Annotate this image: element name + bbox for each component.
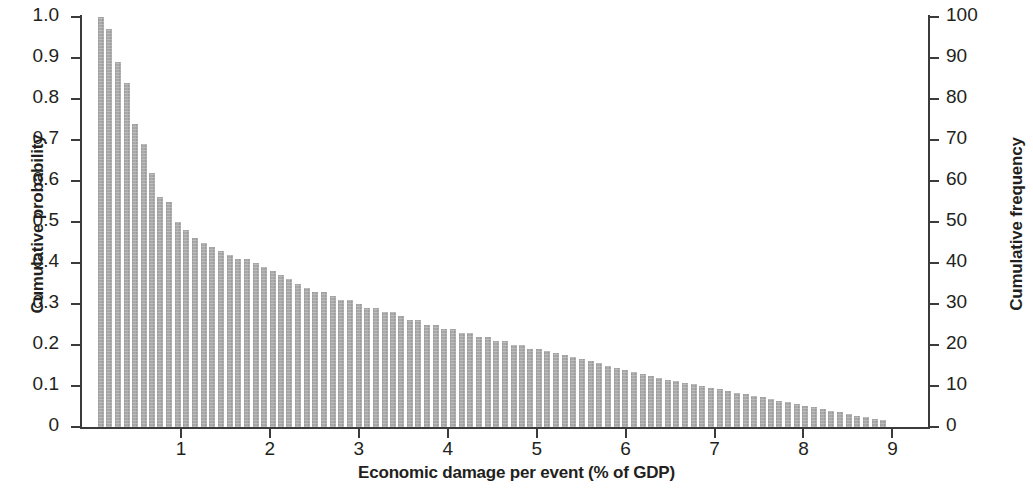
y-axis-right-tick xyxy=(930,57,939,59)
y-axis-right-tick xyxy=(930,426,939,428)
bar xyxy=(253,263,259,427)
y-axis-right-tick-label: 40 xyxy=(946,250,998,272)
x-axis-tick-label: 3 xyxy=(339,438,379,460)
y-axis-left-tick-label: 0.8 xyxy=(7,86,59,108)
y-axis-right-tick-label: 20 xyxy=(946,332,998,354)
x-axis-tick xyxy=(802,429,804,438)
bar xyxy=(459,333,465,427)
bar xyxy=(519,345,525,427)
bar xyxy=(828,411,834,427)
bar xyxy=(270,271,276,427)
y-axis-right-title: Cumulative frequency xyxy=(1007,104,1027,344)
cumulative-damage-chart: Cumulative probability Cumulative freque… xyxy=(0,0,1033,493)
y-axis-right-tick-label: 0 xyxy=(946,414,998,436)
x-axis-tick-label: 8 xyxy=(783,438,823,460)
x-axis-tick xyxy=(269,429,271,438)
bar xyxy=(424,325,430,428)
bar xyxy=(278,275,284,427)
bar xyxy=(553,353,559,427)
y-axis-left-tick-label: 0.7 xyxy=(7,127,59,149)
y-axis-right-tick xyxy=(930,16,939,18)
y-axis-right-tick-label: 100 xyxy=(946,4,998,26)
x-axis-tick-label: 2 xyxy=(250,438,290,460)
bar xyxy=(321,292,327,427)
y-axis-left-tick-label: 0.1 xyxy=(7,373,59,395)
bar xyxy=(734,393,740,427)
bar xyxy=(880,420,886,427)
bar xyxy=(511,345,517,427)
bar xyxy=(760,397,766,427)
bar xyxy=(863,417,869,427)
y-axis-left-tick xyxy=(71,344,80,346)
x-axis-tick xyxy=(714,429,716,438)
bar xyxy=(811,407,817,427)
y-axis-left-tick-label: 0.9 xyxy=(7,45,59,67)
bar xyxy=(605,366,611,428)
x-axis-tick xyxy=(625,429,627,438)
bar xyxy=(415,320,421,427)
bar xyxy=(691,384,697,427)
bar xyxy=(872,419,878,427)
bar xyxy=(708,388,714,427)
y-axis-left-tick-label: 0.6 xyxy=(7,168,59,190)
y-axis-right-tick-label: 10 xyxy=(946,373,998,395)
bar xyxy=(441,329,447,427)
bar xyxy=(192,238,198,427)
y-axis-left-tick-label: 0.4 xyxy=(7,250,59,272)
y-axis-right-tick xyxy=(930,180,939,182)
y-axis-left-tick xyxy=(71,180,80,182)
bar xyxy=(717,389,723,427)
bar xyxy=(794,404,800,427)
bar xyxy=(476,337,482,427)
y-axis-right-tick xyxy=(930,221,939,223)
bar xyxy=(106,29,112,427)
bar xyxy=(544,351,550,427)
bar xyxy=(312,292,318,427)
bar xyxy=(183,230,189,427)
bar xyxy=(802,406,808,427)
bar xyxy=(390,312,396,427)
bar xyxy=(244,259,250,427)
bar xyxy=(536,349,542,427)
y-axis-left-tick xyxy=(71,262,80,264)
y-axis-right-tick-label: 30 xyxy=(946,291,998,313)
bar xyxy=(338,300,344,427)
bar xyxy=(149,173,155,427)
bar xyxy=(656,378,662,427)
x-axis-title: Economic damage per event (% of GDP) xyxy=(0,463,1033,483)
bar xyxy=(785,402,791,427)
x-axis-tick-label: 6 xyxy=(606,438,646,460)
y-axis-right-tick xyxy=(930,262,939,264)
bar-series xyxy=(92,17,928,427)
x-axis-tick-label: 9 xyxy=(872,438,912,460)
bar xyxy=(209,247,215,427)
bar xyxy=(776,401,782,427)
y-axis-left-tick xyxy=(71,139,80,141)
bar xyxy=(201,243,207,428)
x-axis-tick xyxy=(536,429,538,438)
bar xyxy=(467,333,473,427)
x-axis-tick xyxy=(180,429,182,438)
y-axis-left-spine xyxy=(80,15,82,429)
y-axis-left-tick xyxy=(71,98,80,100)
bar xyxy=(166,202,172,428)
bar xyxy=(622,370,628,427)
bar xyxy=(570,357,576,427)
y-axis-left-tick-label: 1.0 xyxy=(7,4,59,26)
y-axis-left-tick xyxy=(71,303,80,305)
y-axis-left-tick xyxy=(71,57,80,59)
bar xyxy=(450,329,456,427)
bar xyxy=(141,144,147,427)
bar xyxy=(743,394,749,427)
bar xyxy=(648,376,654,427)
bar xyxy=(175,222,181,427)
bar xyxy=(407,320,413,427)
bar xyxy=(347,300,353,427)
y-axis-left-tick-label: 0.2 xyxy=(7,332,59,354)
y-axis-right-tick-label: 70 xyxy=(946,127,998,149)
bar xyxy=(115,62,121,427)
bar xyxy=(373,308,379,427)
bar xyxy=(218,251,224,427)
bar xyxy=(631,372,637,427)
bar xyxy=(382,312,388,427)
